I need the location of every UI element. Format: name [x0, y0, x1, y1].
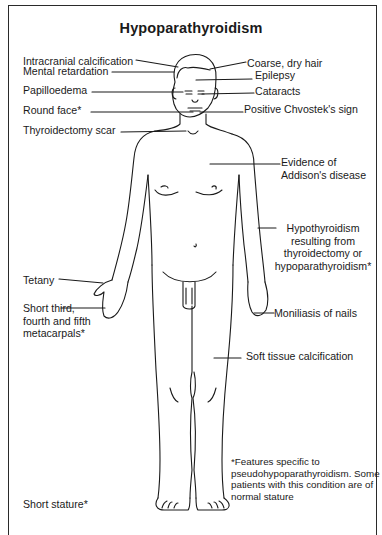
figure-outline [94, 54, 268, 510]
leader-lines [59, 60, 280, 358]
